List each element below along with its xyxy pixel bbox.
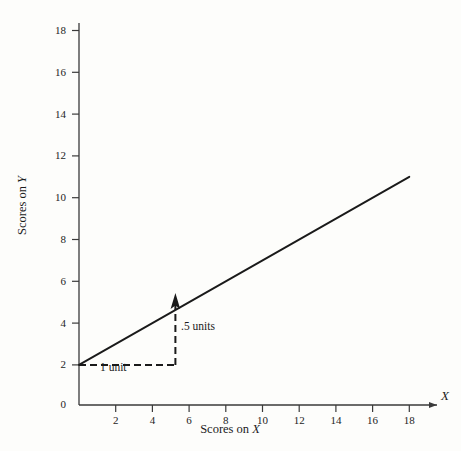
y-tick-label: 18 bbox=[34, 24, 66, 36]
y-tick-label: 4 bbox=[34, 317, 66, 329]
y-axis-title-symbol: Y bbox=[15, 176, 29, 183]
x-tick-label: 18 bbox=[395, 414, 423, 426]
x-tick-label: 14 bbox=[322, 414, 350, 426]
y-tick-label: 10 bbox=[34, 191, 66, 203]
y-tick-label: 6 bbox=[34, 275, 66, 287]
y-axis-ticks bbox=[72, 31, 79, 365]
regression-line bbox=[79, 177, 409, 365]
x-axis-title-symbol: X bbox=[252, 422, 260, 436]
x-axis-symbol-label: X bbox=[441, 388, 449, 404]
x-axis-title-text: Scores on X bbox=[200, 422, 260, 436]
y-tick-label: 16 bbox=[34, 66, 66, 78]
y-tick-label: 12 bbox=[34, 149, 66, 161]
x-axis-ticks bbox=[116, 405, 410, 412]
annotation-run-label: 1 unit bbox=[100, 361, 127, 373]
y-tick-label: 8 bbox=[34, 233, 66, 245]
y-axis-title-text: Scores on Y bbox=[15, 176, 29, 235]
y-tick-label: 2 bbox=[34, 358, 66, 370]
y-axis-title: Scores on Y bbox=[15, 151, 30, 261]
y-tick-label-zero: 0 bbox=[34, 398, 66, 410]
regression-line-chart: 18 16 14 12 10 8 6 4 2 0 2 4 6 8 10 12 1… bbox=[0, 0, 461, 451]
annotation-rise-label: .5 units bbox=[181, 320, 215, 332]
x-axis-title: Scores on X bbox=[150, 422, 310, 437]
x-tick-label: 16 bbox=[359, 414, 387, 426]
x-tick-label: 2 bbox=[102, 414, 130, 426]
x-axis-arrow-icon bbox=[429, 402, 437, 408]
chart-canvas bbox=[0, 0, 461, 451]
y-tick-label: 14 bbox=[34, 108, 66, 120]
